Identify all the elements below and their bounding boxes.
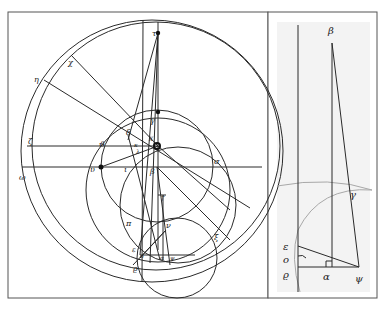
label-alpha: α	[160, 254, 164, 261]
right-panel-background	[277, 22, 370, 292]
right-label-gamma: γ	[350, 189, 356, 200]
label-kappa: κ	[133, 141, 138, 148]
label-sigma: σ	[214, 157, 220, 166]
label-epsilon: ε	[132, 246, 136, 254]
label-dagger: †	[161, 194, 165, 202]
label-nu: ν	[166, 221, 171, 230]
label-pi: π	[125, 219, 132, 228]
label-gamma: γ	[150, 116, 155, 125]
label-rho: ϱ	[133, 264, 138, 273]
label-iota: ι	[124, 165, 127, 174]
point-upsilon	[99, 165, 104, 170]
right-label-alpha: α	[323, 271, 330, 282]
left-panel-frame	[8, 12, 268, 298]
label-delta: δ	[126, 128, 131, 137]
label-omega: ω	[19, 173, 26, 182]
label-eta: η	[34, 75, 39, 84]
right-label-o: ο	[283, 254, 289, 265]
label-lambda: λ	[135, 148, 140, 155]
label-o: ο	[140, 252, 144, 259]
label-upsilon: υ	[90, 165, 95, 174]
label-x: X	[148, 135, 154, 142]
right-label-rho: ϱ	[283, 269, 289, 280]
label-psi: ψ	[170, 254, 175, 262]
label-beta: β	[149, 167, 155, 176]
right-label-epsilon: ε	[283, 241, 288, 252]
right-label-beta: β	[327, 25, 334, 36]
label-xi: ξ	[214, 233, 219, 242]
geometric-diagram: τ γ η χ δ ϑ κ λ X ζ ω υ ι β σ π ν ε ο α …	[0, 0, 386, 310]
label-theta: ϑ	[99, 140, 105, 149]
point-gamma	[156, 110, 160, 114]
right-label-psi: ψ	[355, 273, 363, 284]
label-tau: τ	[152, 29, 157, 38]
point-tau	[156, 31, 160, 35]
label-zeta: ζ	[28, 137, 33, 146]
